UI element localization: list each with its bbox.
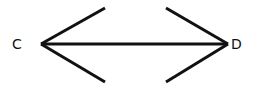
point-label-c: C [12, 36, 22, 52]
left-arrowhead-lower-arm [41, 44, 105, 82]
right-arrowhead-lower-arm [166, 44, 228, 82]
arrow-diagram: C D [0, 0, 253, 90]
right-arrowhead-upper-arm [166, 8, 228, 44]
left-arrowhead-upper-arm [41, 8, 105, 44]
point-label-d: D [231, 36, 242, 52]
